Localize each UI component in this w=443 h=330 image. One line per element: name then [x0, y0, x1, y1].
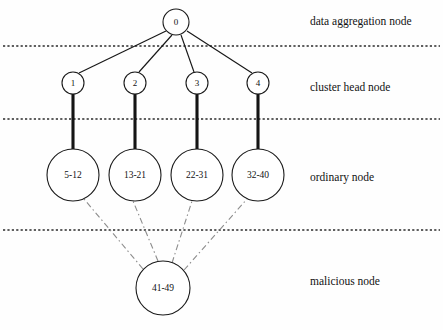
edge-mal-to-on1 [84, 199, 143, 269]
ordinary-node-on2[interactable]: 13-21 [109, 149, 161, 201]
tier-label-group: data aggregation nodecluster head nodeor… [310, 15, 412, 287]
ordinary-node-on4[interactable]: 32-40 [232, 149, 284, 201]
node-group: 012345-1213-2122-3132-4041-49 [47, 9, 284, 315]
cluster-head-node-ch2[interactable]: 2 [124, 72, 146, 94]
edge-mal-to-on3 [172, 201, 192, 263]
edge-mal-to-on4 [184, 199, 247, 270]
malicious-edge-group [84, 199, 247, 270]
cluster-head-node-ch1[interactable]: 1 [62, 72, 84, 94]
ordinary-node-on1[interactable]: 5-12 [47, 149, 99, 201]
ordinary-node-label: 5-12 [64, 170, 82, 180]
ordinary-node-label: 13-21 [124, 170, 146, 180]
ordinary-node-on3[interactable]: 22-31 [171, 149, 223, 201]
tier-label-malicious-node: malicious node [310, 275, 380, 287]
edge-mal-to-on2 [133, 201, 158, 261]
edge-root-to-ch4 [187, 31, 252, 73]
ordinary-node-label: 22-31 [186, 170, 208, 180]
cluster-head-node-label: 2 [133, 78, 138, 88]
tier-label-ordinary-node: ordinary node [310, 171, 374, 184]
aggregation-node-label: 0 [174, 17, 179, 27]
cluster-head-node-label: 1 [71, 78, 76, 88]
malicious-node-mal[interactable]: 41-49 [136, 261, 190, 315]
edge-root-to-ch2 [139, 35, 172, 72]
ordinary-node-label: 32-40 [247, 170, 269, 180]
cluster-head-node-ch3[interactable]: 3 [186, 72, 208, 94]
tier-label-data-aggregation-node: data aggregation node [310, 15, 412, 28]
aggregation-edge-group [79, 31, 252, 73]
network-topology-diagram: 012345-1213-2122-3132-4041-49 data aggre… [0, 0, 443, 330]
tier-label-cluster-head-node: cluster head node [310, 81, 390, 93]
edge-root-to-ch1 [79, 31, 166, 73]
cluster-edge-group [73, 94, 258, 149]
cluster-head-node-label: 3 [195, 78, 200, 88]
cluster-head-node-label: 4 [256, 78, 261, 88]
malicious-node-label: 41-49 [152, 283, 174, 293]
edge-root-to-ch3 [181, 35, 194, 72]
topology-canvas: 012345-1213-2122-3132-4041-49 data aggre… [0, 0, 443, 330]
aggregation-node-root[interactable]: 0 [163, 9, 189, 35]
cluster-head-node-ch4[interactable]: 4 [247, 72, 269, 94]
